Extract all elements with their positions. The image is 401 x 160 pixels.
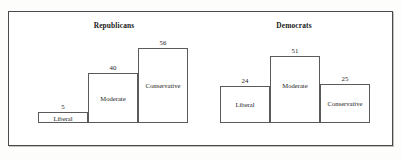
value-label-republicans-moderate: 40	[110, 65, 117, 72]
bar-label-democrats-moderate: Moderate	[271, 83, 319, 90]
value-label-republicans-conservative: 56	[160, 40, 167, 47]
group-title-democrats: Democrats	[276, 21, 311, 30]
bar-label-democrats-liberal: Liberal	[221, 102, 269, 109]
figure-frame: Republicans 5 Liberal 40 Moderate 56 Con…	[8, 11, 393, 146]
value-label-republicans-liberal: 5	[61, 104, 64, 111]
group-title-republicans: Republicans	[94, 21, 135, 30]
bar-label-republicans-liberal: Liberal	[39, 116, 87, 123]
bar-democrats-conservative[interactable]: Conservative	[320, 84, 370, 123]
value-label-democrats-liberal: 24	[242, 78, 249, 85]
bar-democrats-liberal[interactable]: Liberal	[220, 86, 270, 123]
value-label-democrats-conservative: 25	[342, 76, 349, 83]
value-label-democrats-moderate: 51	[292, 48, 299, 55]
bar-democrats-moderate[interactable]: Moderate	[270, 56, 320, 123]
bar-republicans-moderate[interactable]: Moderate	[88, 73, 138, 123]
bar-republicans-liberal[interactable]: Liberal	[38, 112, 88, 123]
bar-label-republicans-conservative: Conservative	[139, 83, 187, 90]
bar-label-democrats-conservative: Conservative	[321, 101, 369, 108]
bar-label-republicans-moderate: Moderate	[89, 96, 137, 103]
bar-republicans-conservative[interactable]: Conservative	[138, 48, 188, 123]
